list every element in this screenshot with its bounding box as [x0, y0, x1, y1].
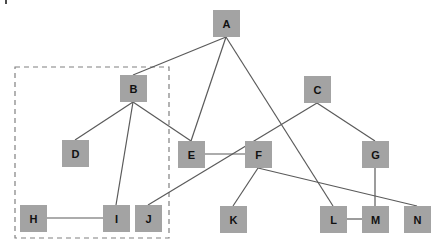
node-d[interactable]: D	[62, 140, 89, 167]
graph-diagram: ABCDEFGHIJKLMN	[0, 0, 442, 247]
node-c[interactable]: C	[304, 76, 331, 103]
edge-layer	[47, 37, 417, 219]
edge-a-l	[226, 37, 333, 206]
node-label: L	[330, 214, 337, 226]
node-l[interactable]: L	[320, 206, 347, 233]
node-label: G	[371, 149, 380, 161]
node-label: A	[223, 18, 231, 30]
edge-a-b	[133, 37, 226, 75]
node-layer: ABCDEFGHIJKLMN	[20, 10, 431, 233]
node-k[interactable]: K	[220, 206, 247, 233]
node-label: D	[72, 148, 80, 160]
node-e[interactable]: E	[178, 141, 205, 168]
node-b[interactable]: B	[120, 75, 147, 102]
node-label: N	[414, 214, 422, 226]
node-label: M	[371, 214, 380, 226]
node-label: E	[188, 149, 195, 161]
node-m[interactable]: M	[362, 206, 389, 233]
node-h[interactable]: H	[20, 205, 47, 232]
edge-b-d	[75, 102, 133, 140]
edge-f-n	[258, 168, 417, 206]
node-j[interactable]: J	[135, 205, 162, 232]
node-f[interactable]: F	[245, 141, 272, 168]
node-label: K	[230, 214, 238, 226]
node-label: H	[30, 213, 38, 225]
edge-c-g	[317, 103, 375, 141]
edge-f-k	[233, 168, 258, 206]
node-label: B	[130, 83, 138, 95]
node-g[interactable]: G	[362, 141, 389, 168]
node-label: C	[314, 84, 322, 96]
node-i[interactable]: I	[103, 205, 130, 232]
node-label: J	[145, 213, 151, 225]
node-a[interactable]: A	[213, 10, 240, 37]
edge-b-e	[133, 102, 191, 141]
edge-b-i	[116, 102, 133, 205]
node-label: I	[115, 213, 118, 225]
edge-a-e	[191, 37, 226, 141]
node-n[interactable]: N	[404, 206, 431, 233]
node-label: F	[255, 149, 262, 161]
